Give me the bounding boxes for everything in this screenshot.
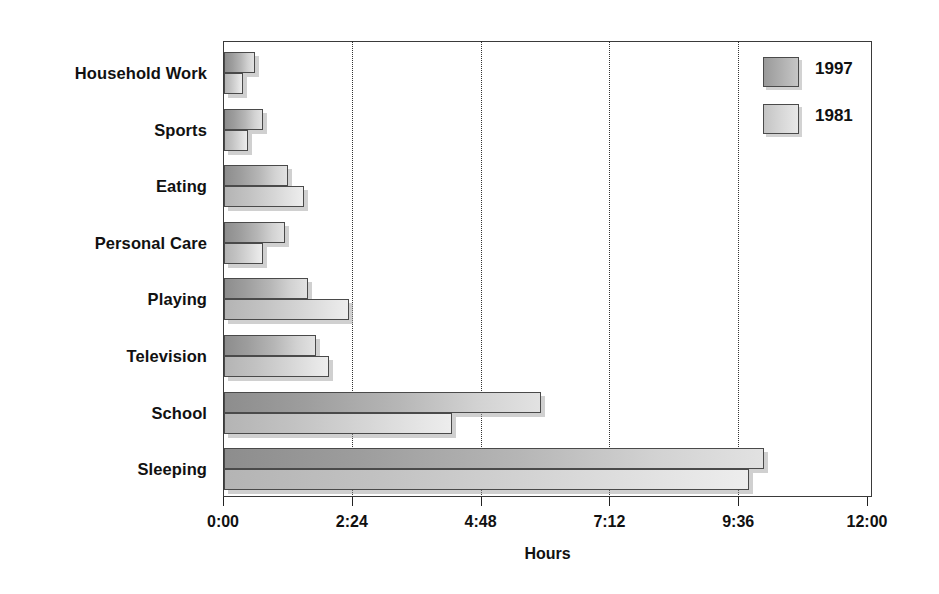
x-axis-title: Hours: [223, 545, 872, 563]
gridline: [738, 41, 739, 497]
bar-1997: [224, 52, 255, 73]
x-tick-mark: [867, 497, 868, 506]
x-tick-mark: [223, 497, 224, 506]
bar-1981: [224, 299, 349, 320]
bar-1981: [224, 356, 329, 377]
x-tick-label: 0:00: [178, 513, 268, 531]
bar-1997: [224, 278, 308, 299]
bar-1981: [224, 243, 263, 264]
x-tick-label: 12:00: [822, 513, 912, 531]
bar-1981: [224, 186, 304, 207]
legend-item-1997[interactable]: 1997: [763, 55, 866, 89]
bar-chart: Household WorkSportsEatingPersonal CareP…: [0, 0, 939, 594]
legend-swatch-1981: [763, 104, 799, 134]
category-label: Playing: [0, 290, 207, 309]
bar-1981: [224, 469, 749, 490]
gridline: [481, 41, 482, 497]
x-tick-mark: [481, 497, 482, 506]
category-label: Sleeping: [0, 460, 207, 479]
x-tick-mark: [609, 497, 610, 506]
bar-1981: [224, 73, 243, 94]
category-label: Personal Care: [0, 234, 207, 253]
legend-label-1997: 1997: [815, 59, 853, 79]
bar-1997: [224, 335, 316, 356]
category-label: Household Work: [0, 64, 207, 83]
category-label: School: [0, 404, 207, 423]
x-tick-label: 9:36: [693, 513, 783, 531]
legend-item-1981[interactable]: 1981: [763, 102, 866, 136]
category-label: Sports: [0, 121, 207, 140]
legend-label-1981: 1981: [815, 106, 853, 126]
x-tick-mark: [738, 497, 739, 506]
x-tick-label: 4:48: [436, 513, 526, 531]
x-tick-label: 7:12: [564, 513, 654, 531]
legend-swatch-1997: [763, 57, 799, 87]
gridline: [609, 41, 610, 497]
category-label: Eating: [0, 177, 207, 196]
bar-1997: [224, 448, 764, 469]
x-tick-label: 2:24: [307, 513, 397, 531]
bar-1997: [224, 109, 263, 130]
category-label: Television: [0, 347, 207, 366]
bar-1997: [224, 392, 541, 413]
bar-1981: [224, 130, 248, 151]
bar-1997: [224, 165, 288, 186]
bar-1997: [224, 222, 285, 243]
bar-1981: [224, 413, 452, 434]
x-tick-mark: [352, 497, 353, 506]
